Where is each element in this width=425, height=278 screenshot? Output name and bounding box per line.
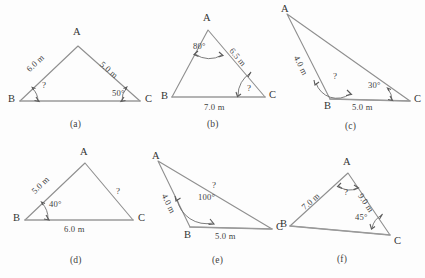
angle-arrow-a2-f (354, 185, 359, 190)
triangle-f-base (290, 226, 390, 235)
angle-arrow-a-f (338, 183, 343, 189)
vertex-label-a: A (343, 157, 351, 168)
angle-label-c: 45° (355, 213, 368, 222)
figure-sheet: A B C 6.0 m 5.0 m ? 50° (a) A B C 80° 6.… (0, 0, 425, 278)
figure-caption-f: (f) (337, 255, 347, 265)
vertex-label-b: B (280, 219, 287, 230)
angle-arrow-c2-f (380, 214, 383, 219)
figure-f: A B C 7.0 m 9.0 m ? 45° (f) (0, 0, 425, 278)
figure-f-graphic (0, 0, 425, 278)
angle-label-a: ? (344, 188, 348, 197)
vertex-label-c: C (394, 236, 401, 247)
